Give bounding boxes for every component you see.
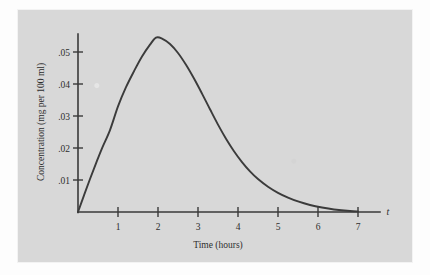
y-tick-label: .04 [58, 80, 70, 90]
y-tick-label: .05 [58, 48, 70, 58]
y-axis-title: Concentration (mg per 100 ml) [36, 63, 47, 181]
x-axis-variable-label: t [387, 206, 390, 217]
x-tick-label: 3 [196, 222, 201, 232]
x-tick-label: 2 [156, 222, 161, 232]
x-axis-tick-labels: 1 2 3 4 5 6 7 [116, 222, 361, 232]
y-axis-tick-labels: .01 .02 .03 .04 .05 [58, 48, 70, 186]
y-tick-label: .03 [58, 112, 70, 122]
x-tick-label: 1 [116, 222, 121, 232]
concentration-vs-time-chart: .01 .02 .03 .04 .05 1 2 3 4 5 6 7 [0, 0, 430, 275]
x-tick-label: 4 [236, 222, 241, 232]
y-tick-label: .02 [58, 144, 70, 154]
y-tick-label: .01 [58, 176, 70, 186]
x-axis-title: Time (hours) [193, 240, 243, 251]
x-tick-label: 5 [276, 222, 281, 232]
concentration-curve [78, 37, 358, 212]
x-tick-label: 7 [356, 222, 361, 232]
x-tick-label: 6 [316, 222, 321, 232]
figure-root: .01 .02 .03 .04 .05 1 2 3 4 5 6 7 [0, 0, 430, 275]
